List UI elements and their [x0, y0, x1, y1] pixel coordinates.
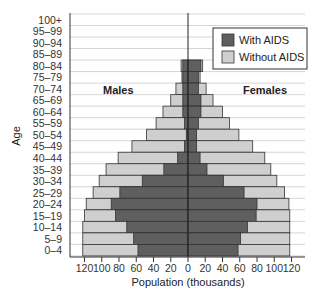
- female-with-aids-bar: [188, 221, 248, 233]
- x-tick-label: 100: [93, 262, 111, 274]
- age-label: 90–94: [33, 37, 62, 49]
- x-tick-label: 120: [283, 262, 301, 274]
- age-label: 45–49: [33, 140, 62, 152]
- x-tick-label: 20: [165, 262, 177, 274]
- x-tick-labels: 12010080604020020406080100120: [76, 257, 301, 274]
- female-with-aids-bar: [188, 118, 198, 130]
- male-with-aids-bar: [185, 141, 188, 153]
- male-with-aids-bar: [120, 187, 188, 199]
- female-with-aids-bar: [188, 106, 201, 118]
- age-label: 80–84: [33, 60, 62, 72]
- male-with-aids-bar: [127, 221, 188, 233]
- male-with-aids-bar: [183, 83, 188, 95]
- female-with-aids-bar: [188, 164, 207, 176]
- male-with-aids-bar: [183, 60, 188, 72]
- age-label: 20–24: [33, 198, 62, 210]
- x-tick-label: 80: [251, 262, 263, 274]
- y-axis-title: Age: [10, 126, 22, 146]
- age-label: 0–4: [44, 244, 62, 256]
- female-with-aids-bar: [188, 83, 198, 95]
- female-with-aids-bar: [188, 141, 197, 153]
- male-with-aids-bar: [138, 244, 188, 256]
- female-with-aids-bar: [188, 95, 201, 107]
- female-with-aids-bar: [188, 187, 244, 199]
- age-label: 75–79: [33, 71, 62, 83]
- age-label: 65–69: [33, 94, 62, 106]
- female-with-aids-bar: [188, 129, 197, 141]
- legend-swatch-without-aids: [222, 51, 234, 63]
- legend: With AIDS Without AIDS: [213, 28, 307, 69]
- male-with-aids-bar: [183, 95, 188, 107]
- age-label: 55–59: [33, 117, 62, 129]
- age-label: 100+: [38, 14, 62, 26]
- age-label: 35–39: [33, 164, 62, 176]
- age-label: 85–89: [33, 48, 62, 60]
- male-with-aids-bar: [142, 175, 188, 187]
- male-without-aids-bar: [147, 129, 188, 141]
- male-with-aids-bar: [164, 164, 188, 176]
- y-tick-labels: 100+95–9990–9485–8980–8475–7970–7465–696…: [33, 14, 62, 256]
- age-label: 50–54: [33, 129, 62, 141]
- population-pyramid-chart: 100+95–9990–9485–8980–8475–7970–7465–696…: [0, 0, 327, 300]
- age-label: 95–99: [33, 25, 62, 37]
- males-label: Males: [103, 84, 134, 96]
- x-tick-label: 40: [217, 262, 229, 274]
- male-with-aids-bar: [111, 198, 188, 210]
- female-with-aids-bar: [188, 175, 223, 187]
- female-with-aids-bar: [188, 244, 238, 256]
- male-without-aids-bar: [132, 141, 188, 153]
- age-label: 10–14: [33, 221, 62, 233]
- legend-swatch-with-aids: [222, 34, 234, 46]
- age-label: 70–74: [33, 83, 62, 95]
- x-tick-label: 40: [148, 262, 160, 274]
- legend-label-with-aids: With AIDS: [239, 34, 289, 46]
- age-label: 30–34: [33, 175, 62, 187]
- x-tick-label: 120: [76, 262, 94, 274]
- male-with-aids-bar: [183, 106, 188, 118]
- age-label: 15–19: [33, 210, 62, 222]
- x-tick-label: 20: [199, 262, 211, 274]
- female-with-aids-bar: [188, 152, 200, 164]
- legend-label-without-aids: Without AIDS: [239, 51, 304, 63]
- female-with-aids-bar: [188, 233, 241, 245]
- female-with-aids-bar: [188, 60, 201, 72]
- age-label: 40–44: [33, 152, 62, 164]
- female-without-aids-bar: [188, 141, 253, 153]
- male-with-aids-bar: [185, 118, 188, 130]
- age-label: 25–29: [33, 187, 62, 199]
- x-tick-label: 0: [185, 262, 191, 274]
- male-without-aids-bar: [156, 118, 188, 130]
- female-with-aids-bar: [188, 72, 198, 84]
- age-label: 5–9: [44, 233, 62, 245]
- x-tick-label: 100: [265, 262, 283, 274]
- x-tick-label: 60: [130, 262, 142, 274]
- x-axis-title: Population (thousands): [131, 276, 244, 288]
- females-label: Females: [243, 84, 287, 96]
- male-with-aids-bar: [116, 210, 188, 222]
- male-with-aids-bar: [183, 72, 188, 84]
- age-label: 60–64: [33, 106, 62, 118]
- male-with-aids-bar: [178, 152, 188, 164]
- female-with-aids-bar: [188, 198, 257, 210]
- male-with-aids-bar: [134, 233, 188, 245]
- x-tick-label: 60: [234, 262, 246, 274]
- female-with-aids-bar: [188, 210, 256, 222]
- x-tick-label: 80: [113, 262, 125, 274]
